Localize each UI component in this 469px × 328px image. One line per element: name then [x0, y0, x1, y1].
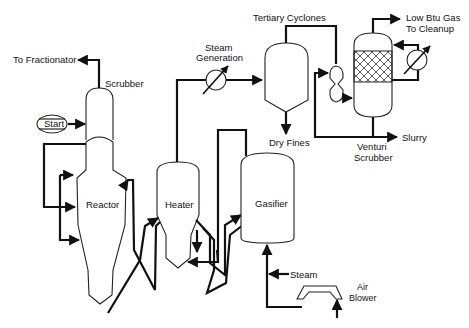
label-scrubber: Scrubber — [105, 78, 144, 89]
label-blower: Blower — [349, 293, 377, 303]
steam-generation-exchanger — [203, 66, 228, 94]
label-steam: Steam — [290, 269, 318, 280]
venturi-scrubber-column — [354, 33, 392, 117]
label-low-btu-1: Low Btu Gas — [406, 12, 461, 23]
label-gasifier: Gasifier — [255, 198, 288, 209]
label-start: Start — [44, 118, 64, 129]
label-venturi-2: Scrubber — [354, 152, 393, 163]
label-tertiary-cyclones: Tertiary Cyclones — [253, 12, 326, 23]
label-air: Air — [357, 282, 368, 292]
label-dry-fines: Dry Fines — [269, 137, 310, 148]
pipe-heater-steamgen — [177, 80, 208, 162]
label-reactor: Reactor — [86, 199, 119, 210]
label-heater: Heater — [165, 199, 194, 210]
process-flow-diagram: To Fractionator Scrubber Start Reactor H… — [0, 0, 469, 328]
label-to-fractionator: To Fractionator — [13, 54, 76, 65]
cooler-exchanger — [404, 46, 430, 74]
heater-vessel — [157, 162, 199, 268]
label-low-btu-2: To Cleanup — [406, 23, 454, 34]
venturi — [330, 66, 343, 102]
pipe-low-btu-gas — [373, 19, 400, 33]
pipe-to-fractionator — [78, 60, 99, 88]
reactor-vessel — [77, 142, 126, 304]
air-blower — [297, 286, 342, 299]
scrubber — [86, 88, 113, 142]
label-steam-gen-2: Generation — [196, 52, 243, 63]
label-venturi-1: Venturi — [357, 141, 387, 152]
label-slurry: Slurry — [402, 132, 427, 143]
tertiary-cyclone — [265, 43, 308, 112]
pipe-slurry — [373, 117, 397, 137]
